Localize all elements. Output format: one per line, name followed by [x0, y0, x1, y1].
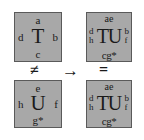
equal-symbol: = — [99, 62, 108, 78]
tile-top-right: ae d h TU b f cg* — [86, 12, 132, 62]
tile-composition-diagram: a d T b c e h U f g* ae d h TU b f cg* a… — [0, 0, 144, 140]
tile-bottom-right-north-label: ae — [87, 82, 131, 92]
tile-bottom-right-east-lower-label: f — [125, 103, 130, 112]
tile-bottom-left-east-label: f — [54, 99, 58, 110]
tile-bottom-left-south-label: g* — [15, 115, 61, 126]
tile-top-right-north-label: ae — [87, 14, 131, 24]
tile-top-right-south-label: cg* — [87, 50, 131, 61]
tile-bottom-left: e h U f g* — [14, 80, 62, 128]
tile-bottom-right-south-label: cg* — [87, 116, 131, 127]
tile-top-left-east-label: b — [53, 32, 59, 43]
right-arrow-icon: → — [62, 62, 79, 79]
tile-top-left-south-label: c — [15, 49, 61, 60]
tile-bottom-right: ae d h TU b f cg* — [86, 80, 132, 128]
tile-top-right-east-stack: b f — [125, 27, 130, 44]
not-equal-symbol: ≠ — [30, 62, 39, 78]
tile-bottom-right-east-stack: b f — [125, 94, 130, 111]
tile-top-right-east-lower-label: f — [125, 36, 130, 45]
tile-top-left: a d T b c — [14, 12, 62, 62]
